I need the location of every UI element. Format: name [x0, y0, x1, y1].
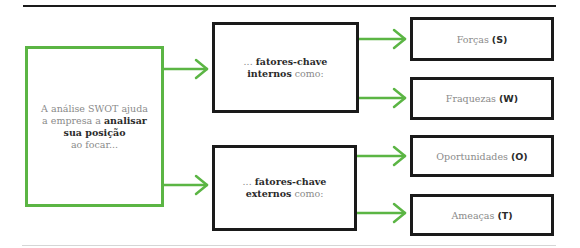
swot-intro-text: A análise SWOT ajuda a empresa a analisa… [41, 103, 148, 151]
external-factors-box: ... fatores-chave externos como: [212, 145, 357, 231]
opportunities-box: Oportunidades (O) [410, 135, 554, 177]
weaknesses-text: Fraquezas (W) [446, 93, 518, 104]
internal-factors-text: ... fatores-chave internos como: [244, 56, 328, 80]
strengths-box: Forças (S) [410, 17, 554, 61]
opportunities-label: Oportunidades [436, 151, 511, 162]
threats-label: Ameaças [451, 210, 497, 221]
external-key-factors: fatores-chave [255, 176, 327, 187]
external-prefix: ... [243, 176, 255, 187]
intro-line-2: a empresa a [42, 115, 104, 126]
strengths-label: Forças [457, 34, 492, 45]
weaknesses-label: Fraquezas [446, 93, 499, 104]
threats-box: Ameaças (T) [410, 194, 554, 236]
threats-letter: (T) [497, 210, 512, 221]
internal-suffix: como: [292, 68, 324, 79]
swot-intro-box: A análise SWOT ajuda a empresa a analisa… [25, 46, 164, 207]
internal-label: internos [247, 68, 292, 79]
external-label: externos [246, 188, 292, 199]
opportunities-text: Oportunidades (O) [436, 151, 527, 162]
internal-prefix: ... [244, 56, 256, 67]
weaknesses-letter: (W) [499, 93, 518, 104]
opportunities-letter: (O) [511, 151, 528, 162]
arrow-external-to-threats [357, 204, 405, 222]
internal-key-factors: fatores-chave [256, 56, 328, 67]
arrow-internal-to-weaknesses [359, 89, 405, 107]
arrow-main-to-external [164, 176, 207, 194]
threats-text: Ameaças (T) [451, 210, 512, 221]
internal-factors-box: ... fatores-chave internos como: [212, 22, 359, 113]
strengths-text: Forças (S) [457, 34, 508, 45]
intro-line-1: A análise SWOT ajuda [41, 103, 148, 114]
intro-line-4: ao focar... [71, 139, 118, 150]
arrow-internal-to-strengths [359, 30, 405, 48]
weaknesses-box: Fraquezas (W) [410, 77, 554, 120]
intro-bold-position: sua posição [64, 127, 126, 138]
external-suffix: como: [291, 188, 323, 199]
external-factors-text: ... fatores-chave externos como: [243, 176, 327, 200]
arrow-main-to-internal [164, 60, 207, 78]
intro-bold-analyze: analisar [104, 115, 147, 126]
strengths-letter: (S) [492, 34, 508, 45]
bottom-divider [22, 245, 556, 246]
arrow-external-to-opportunities [357, 147, 405, 165]
